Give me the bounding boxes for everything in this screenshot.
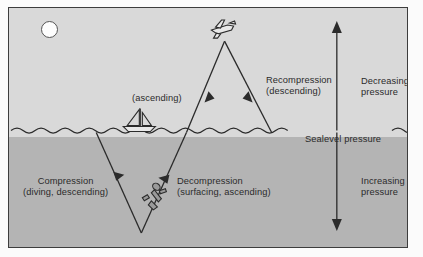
label-compression-line2: (diving, descending)	[23, 187, 108, 198]
path-recompression	[225, 41, 272, 132]
label-decreasing-line1: Decreasing	[361, 76, 408, 87]
diagram-vector-layer	[9, 8, 407, 247]
airplane-icon	[212, 20, 236, 38]
arrowhead-ascending	[204, 91, 214, 102]
path-ascending	[186, 41, 224, 132]
label-decompression-line1: Decompression	[177, 176, 271, 187]
label-recompression: Recompression (descending)	[266, 75, 332, 97]
sealevel-wave-right	[392, 128, 407, 133]
label-compression: Compression (diving, descending)	[23, 176, 108, 198]
label-recompression-line2: (descending)	[266, 86, 332, 97]
label-increasing-pressure: Increasing pressure	[361, 176, 405, 198]
label-decreasing-line2: pressure	[361, 87, 408, 98]
label-sealevel-pressure: Sealevel pressure	[305, 134, 381, 145]
label-decompression: Decompression (surfacing, ascending)	[177, 176, 271, 198]
sailboat-icon	[123, 108, 155, 131]
label-compression-line1: Compression	[23, 176, 108, 187]
arrowhead-compression	[113, 172, 124, 181]
label-ascending: (ascending)	[132, 93, 182, 104]
label-increasing-line1: Increasing	[361, 176, 405, 187]
label-decompression-line2: (surfacing, ascending)	[177, 187, 271, 198]
up-arrow-icon	[332, 21, 342, 33]
label-recompression-line1: Recompression	[266, 75, 332, 86]
illustration-frame: (ascending) Recompression (descending) D…	[8, 7, 408, 248]
label-increasing-line2: pressure	[361, 187, 405, 198]
label-decreasing-pressure: Decreasing pressure	[361, 76, 408, 98]
diagram-figure: (ascending) Recompression (descending) D…	[0, 0, 423, 257]
down-arrow-icon	[332, 219, 342, 231]
